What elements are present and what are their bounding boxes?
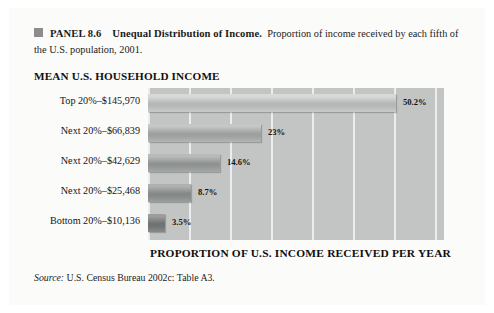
bar-value-label: 23% [268,127,285,137]
bar-row: 14.6% [148,148,444,178]
category-label: Top 20%–$145,970 [28,95,140,106]
source-label: Source: [34,272,64,283]
bar-row: 3.5% [148,208,444,238]
plot-area: 50.2% 23% 14.6% 8.7% 3.5% [148,88,444,240]
bar-value-label: 3.5% [172,217,191,227]
bar-top-20 [148,94,396,112]
category-axis-labels: Top 20%–$145,970 Next 20%–$66,839 Next 2… [34,88,144,240]
category-label: Next 20%–$25,468 [28,185,140,196]
source-text: U.S. Census Bureau 2002c: Table A3. [67,272,215,283]
bar-row: 50.2% [148,88,444,118]
bar-row: 23% [148,118,444,148]
bar-next-20-c [148,154,220,172]
bar-next-20-d [148,184,191,202]
panel-caption: PANEL 8.6 Unequal Distribution of Income… [34,26,464,58]
chart-title: MEAN U.S. HOUSEHOLD INCOME [34,70,220,82]
bar-value-label: 50.2% [403,97,427,107]
bar-next-20-b [148,124,261,142]
bar-value-label: 14.6% [227,157,251,167]
panel-figure: PANEL 8.6 Unequal Distribution of Income… [0,0,494,313]
category-label: Next 20%–$66,839 [28,125,140,136]
bar-bottom-20 [148,214,165,232]
chart-plot-wrapper: Top 20%–$145,970 Next 20%–$66,839 Next 2… [34,88,444,240]
bar-row: 8.7% [148,178,444,208]
panel-label: PANEL 8.6 [50,28,101,39]
category-label: Next 20%–$42,629 [28,155,140,166]
category-label: Bottom 20%–$10,136 [28,215,140,226]
filled-square-icon [34,28,43,37]
panel-title: Unequal Distribution of Income. [112,28,262,39]
bar-value-label: 8.7% [198,187,217,197]
source-note: Source: U.S. Census Bureau 2002c: Table … [34,272,215,283]
x-axis-title: PROPORTION OF U.S. INCOME RECEIVED PER Y… [150,247,451,259]
